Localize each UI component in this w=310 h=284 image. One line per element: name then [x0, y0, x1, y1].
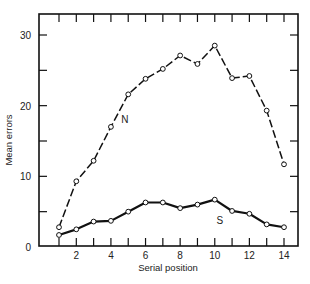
- data-point-marker: [247, 211, 252, 216]
- axes-box: [39, 14, 298, 246]
- series-group: NS: [57, 43, 287, 237]
- data-point-marker: [264, 108, 269, 113]
- x-axis-label: Serial position: [138, 262, 198, 273]
- y-axis-tick-labels: 0102030: [20, 30, 32, 253]
- data-point-marker: [282, 162, 287, 167]
- x-tick-label: 14: [278, 250, 290, 261]
- data-point-marker: [160, 67, 165, 72]
- data-point-marker: [195, 62, 200, 67]
- data-point-marker: [212, 43, 217, 48]
- x-tick-label: 10: [209, 250, 221, 261]
- data-point-marker: [57, 225, 62, 230]
- y-tick-label: 30: [20, 30, 32, 41]
- data-point-marker: [74, 227, 79, 232]
- data-point-marker: [178, 53, 183, 58]
- y-axis-ticks: [39, 35, 298, 212]
- data-point-marker: [143, 76, 148, 81]
- data-point-marker: [230, 76, 235, 81]
- x-tick-label: 2: [74, 250, 80, 261]
- data-point-marker: [74, 179, 79, 184]
- x-tick-label: 12: [244, 250, 256, 261]
- data-point-marker: [57, 233, 62, 238]
- data-point-marker: [195, 202, 200, 207]
- data-point-marker: [264, 222, 269, 227]
- y-axis-label: Mean errors: [3, 114, 14, 165]
- plot-frame: [39, 14, 298, 246]
- data-point-marker: [126, 209, 131, 214]
- series-n: N: [57, 43, 287, 229]
- series-label: S: [217, 215, 224, 226]
- data-point-marker: [247, 74, 252, 79]
- data-point-marker: [143, 200, 148, 205]
- x-tick-label: 6: [143, 250, 149, 261]
- data-point-marker: [109, 218, 114, 223]
- line-chart: 2468101214 0102030 Serial position Mean …: [0, 0, 310, 284]
- series-line: [59, 200, 284, 235]
- data-point-marker: [91, 219, 96, 224]
- x-tick-label: 4: [108, 250, 114, 261]
- x-axis-tick-labels: 2468101214: [74, 250, 290, 261]
- data-point-marker: [160, 200, 165, 205]
- x-tick-label: 8: [177, 250, 183, 261]
- y-tick-label: 10: [20, 171, 32, 182]
- series-label: N: [121, 114, 128, 125]
- series-line: [59, 46, 284, 228]
- series-s: S: [57, 197, 287, 237]
- y-tick-label: 0: [25, 242, 31, 253]
- data-point-marker: [91, 158, 96, 163]
- data-point-marker: [230, 209, 235, 214]
- y-tick-label: 20: [20, 101, 32, 112]
- data-point-marker: [178, 206, 183, 211]
- data-point-marker: [126, 92, 131, 97]
- data-point-marker: [282, 225, 287, 230]
- data-point-marker: [109, 124, 114, 129]
- data-point-marker: [212, 197, 217, 202]
